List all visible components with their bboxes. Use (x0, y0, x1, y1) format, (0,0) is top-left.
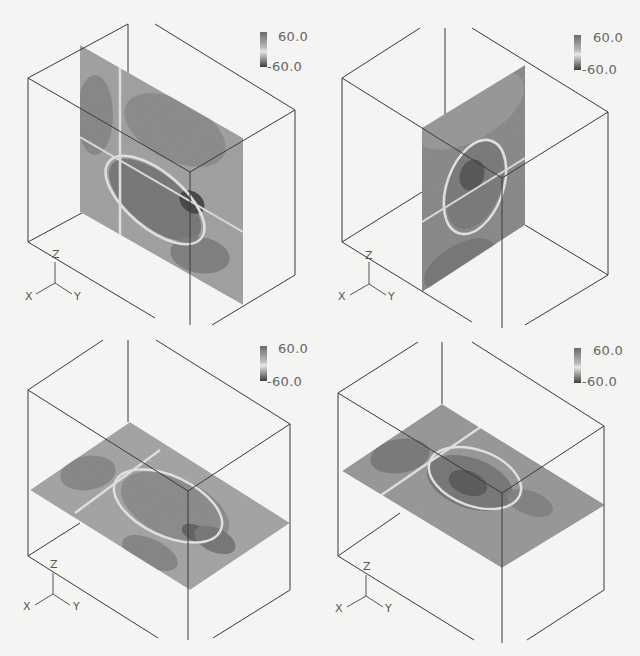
colorbar (260, 346, 267, 381)
colorbar (260, 32, 267, 67)
axes-triad (350, 262, 386, 295)
axis-x-label: X (23, 600, 31, 613)
axis-z-label: Z (50, 558, 58, 571)
colorbar-min-label: -60.0 (582, 374, 617, 389)
axis-y-label: Y (388, 290, 395, 303)
axis-z-label: Z (52, 248, 60, 261)
axis-z-label: Z (363, 560, 371, 573)
panel-a-visualization (0, 0, 320, 328)
colorbar (574, 35, 581, 70)
colorbar-min-label: -60.0 (582, 62, 617, 77)
slice-plane (403, 54, 537, 302)
panel-d: 60.0 -60.0 Z X Y (320, 328, 640, 656)
panel-c: 60.0 -60.0 Z X Y (0, 328, 320, 656)
panel-b-visualization (320, 0, 640, 328)
axis-z-label: Z (365, 249, 373, 262)
axis-y-label: Y (385, 602, 392, 615)
axis-x-label: X (335, 602, 343, 615)
colorbar-max-label: 60.0 (593, 343, 623, 358)
colorbar-max-label: 60.0 (278, 29, 308, 44)
colorbar (574, 348, 581, 383)
axis-x-label: X (338, 290, 346, 303)
colorbar-min-label: -60.0 (267, 59, 302, 74)
axis-y-label: Y (73, 600, 80, 613)
colorbar-max-label: 60.0 (278, 341, 308, 356)
axis-y-label: Y (74, 290, 81, 303)
slice-plane (30, 422, 290, 590)
panel-b: 60.0 -60.0 Z X Y (320, 0, 640, 328)
colorbar-max-label: 60.0 (593, 30, 623, 45)
axes-triad (36, 262, 72, 294)
panel-a: 60.0 -60.0 Z X Y (0, 0, 320, 328)
colorbar-min-label: -60.0 (267, 374, 302, 389)
slice-plane (77, 45, 243, 305)
slice-plane (342, 404, 605, 568)
axis-x-label: X (25, 290, 33, 303)
axes-triad (35, 573, 70, 605)
axes-triad (347, 575, 383, 607)
